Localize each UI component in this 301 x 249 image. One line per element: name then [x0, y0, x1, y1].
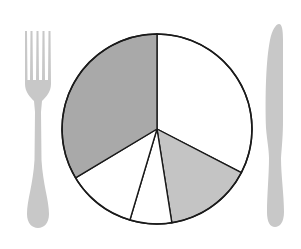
plate-pie-chart — [0, 0, 301, 249]
pie-slices — [62, 34, 252, 224]
fork-icon — [25, 31, 51, 228]
pie-chart-svg — [0, 0, 301, 249]
knife-icon — [266, 24, 284, 227]
